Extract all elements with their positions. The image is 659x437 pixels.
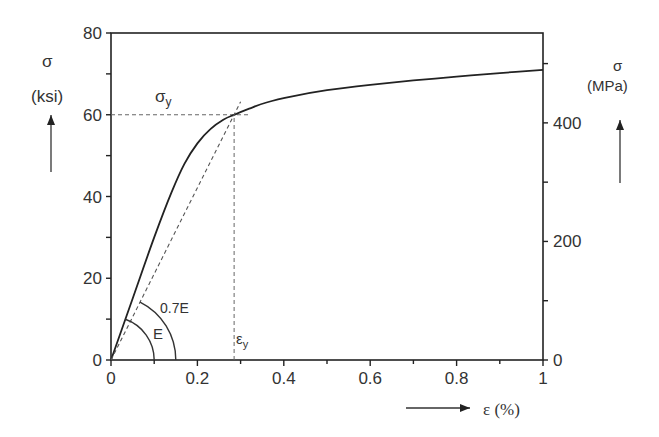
stress-strain-curve (111, 70, 543, 360)
right-tick-label: 400 (553, 114, 581, 133)
eps-y-symbol: ε (236, 330, 243, 347)
right-axis-arrow-icon-head (616, 120, 624, 130)
sigma-y-symbol: σ (155, 87, 166, 106)
left-tick-label: 0 (93, 351, 102, 370)
right-axis-symbol: σ (613, 57, 622, 74)
left-tick-label: 60 (83, 106, 102, 125)
x-tick-label: 0.6 (358, 369, 382, 388)
x-tick-label: 1 (538, 369, 547, 388)
eps-y-label: εy (236, 330, 248, 350)
x-tick-label: 0.2 (186, 369, 210, 388)
left-axis-symbol: σ (42, 52, 53, 72)
right-tick-label: 0 (553, 351, 562, 370)
stress-strain-chart: 020406080020040000.20.40.60.81 (0, 0, 659, 437)
x-axis-label: ε (%) (483, 400, 520, 420)
E-arc (125, 319, 154, 360)
right-axis-unit: (MPa) (587, 77, 628, 94)
x-tick-label: 0.8 (445, 369, 469, 388)
right-tick-label: 200 (553, 232, 581, 251)
left-tick-label: 80 (83, 24, 102, 43)
sigma-y-subscript: y (166, 95, 172, 109)
left-tick-label: 20 (83, 269, 102, 288)
E-label: E (153, 325, 163, 342)
left-tick-label: 40 (83, 188, 102, 207)
sigma-y-label: σy (155, 87, 172, 109)
x-tick-label: 0 (106, 369, 115, 388)
0.7E-label: 0.7E (160, 300, 189, 316)
x-axis-arrow-icon-head (460, 404, 470, 412)
eps-y-subscript: y (243, 338, 249, 350)
x-tick-label: 0.4 (272, 369, 296, 388)
left-axis-arrow-icon-head (47, 115, 55, 125)
left-axis-unit: (ksi) (31, 87, 63, 107)
